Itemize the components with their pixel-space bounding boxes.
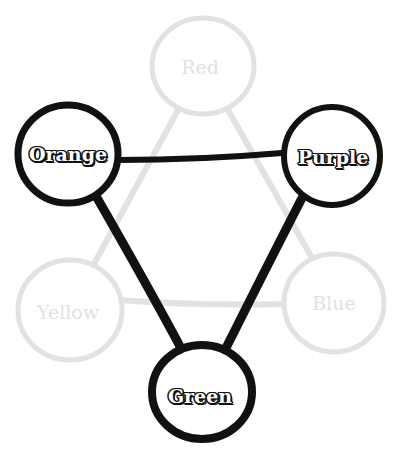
label-green: Green [168, 385, 232, 407]
label-purple: Purple [298, 146, 369, 168]
label-blue: Blue [312, 292, 356, 314]
edge-yellow-blue [118, 300, 285, 305]
label-red: Red [181, 56, 219, 78]
color-triangle-diagram: Red Orange Purple Yellow Blue Green [0, 0, 405, 461]
label-yellow: Yellow [37, 301, 99, 323]
faded-edges [95, 110, 312, 305]
label-orange: Orange [29, 143, 107, 165]
